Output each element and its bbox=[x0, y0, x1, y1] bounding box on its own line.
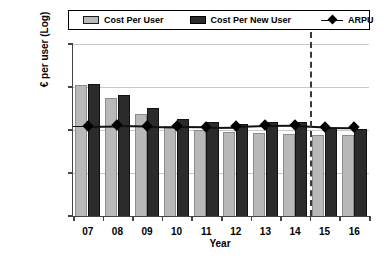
x-tick-mark bbox=[369, 216, 371, 221]
arpu-data-point bbox=[289, 119, 300, 130]
legend-label-cost-per-new-user: Cost Per New User bbox=[211, 15, 292, 25]
x-tick-mark bbox=[339, 216, 341, 221]
arpu-data-point bbox=[112, 120, 123, 131]
arpu-data-point bbox=[349, 121, 360, 132]
legend-label-cost-per-user: Cost Per User bbox=[104, 15, 164, 25]
x-tick-label: 08 bbox=[112, 226, 123, 237]
x-tick-label: 07 bbox=[82, 226, 93, 237]
legend-item-cost-per-user[interactable]: Cost Per User bbox=[83, 11, 164, 29]
dark-gray-square-icon bbox=[190, 16, 206, 24]
arpu-data-point bbox=[230, 121, 241, 132]
x-axis-label: Year bbox=[72, 238, 368, 249]
arpu-data-point bbox=[260, 120, 271, 131]
arpu-data-point bbox=[319, 121, 330, 132]
x-tick-mark bbox=[191, 216, 193, 221]
x-tick-mark bbox=[132, 216, 134, 221]
x-tick-mark bbox=[73, 216, 75, 221]
legend-item-arpu[interactable]: ARPU bbox=[321, 11, 374, 29]
x-tick-label: 10 bbox=[171, 226, 182, 237]
legend-item-cost-per-new-user[interactable]: Cost Per New User bbox=[190, 11, 292, 29]
plot-area: 1101001,00010,000 07080910111213141516 bbox=[72, 44, 369, 217]
forecast-divider-line bbox=[310, 32, 312, 216]
x-tick-label: 09 bbox=[141, 226, 152, 237]
arpu-data-point bbox=[201, 121, 212, 132]
arpu-data-point bbox=[82, 120, 93, 131]
x-tick-label: 14 bbox=[289, 226, 300, 237]
y-axis-label: € per user (Log) bbox=[39, 0, 50, 136]
x-tick-label: 16 bbox=[349, 226, 360, 237]
x-tick-label: 12 bbox=[230, 226, 241, 237]
x-tick-label: 11 bbox=[201, 226, 212, 237]
chart-legend: Cost Per User Cost Per New User ARPU bbox=[68, 10, 370, 30]
x-tick-mark bbox=[280, 216, 282, 221]
x-tick-mark bbox=[103, 216, 105, 221]
arpu-data-point bbox=[141, 120, 152, 131]
x-tick-mark bbox=[221, 216, 223, 221]
diamond-marker-icon bbox=[321, 16, 343, 25]
x-tick-label: 15 bbox=[319, 226, 330, 237]
chart-container: Cost Per User Cost Per New User ARPU € p… bbox=[0, 0, 384, 266]
x-tick-mark bbox=[162, 216, 164, 221]
arpu-data-point bbox=[171, 121, 182, 132]
x-tick-mark bbox=[251, 216, 253, 221]
x-tick-label: 13 bbox=[260, 226, 271, 237]
arpu-line-series bbox=[73, 44, 369, 216]
light-gray-square-icon bbox=[83, 16, 99, 24]
legend-label-arpu: ARPU bbox=[348, 15, 374, 25]
x-tick-mark bbox=[310, 216, 312, 221]
